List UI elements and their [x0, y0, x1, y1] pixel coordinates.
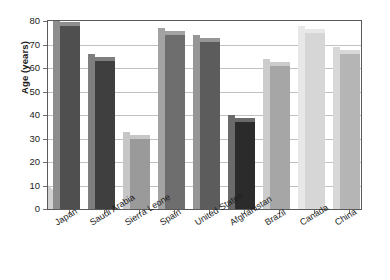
bar-front-face [200, 42, 220, 209]
plot-area [47, 20, 362, 210]
bar-top-face [193, 35, 200, 42]
y-tick-label: 30 [18, 134, 40, 144]
bar [200, 42, 220, 209]
y-tick-label: 70 [18, 40, 40, 50]
y-tick-label: 10 [18, 181, 40, 191]
bar-side-face [263, 66, 270, 209]
bar-front-face [95, 61, 115, 209]
y-tick-label: 60 [18, 63, 40, 73]
y-tick-label: 40 [18, 110, 40, 120]
bar [305, 33, 325, 209]
bar-front-face [165, 35, 185, 209]
bar [340, 54, 360, 209]
bar-top-face [88, 54, 95, 61]
bar-top-face [228, 115, 235, 122]
bar-top-face [123, 132, 130, 139]
y-tick-label: 0 [18, 204, 40, 214]
bar-front-face [305, 33, 325, 209]
y-tick-label: 20 [18, 157, 40, 167]
bar-side-face [88, 61, 95, 209]
y-tick-label: 50 [18, 87, 40, 97]
bar-top-face [53, 20, 60, 26]
bar [270, 66, 290, 209]
bar-front-face [270, 66, 290, 209]
bar-chart: Age (years) 80706050403020100 JapanSaudi… [0, 0, 390, 280]
bar [165, 35, 185, 209]
bar-side-face [158, 35, 165, 209]
bar-side-face [333, 54, 340, 209]
bar-front-face [60, 26, 80, 209]
bar-top-face [298, 26, 305, 33]
bar [60, 26, 80, 209]
bar-side-face [53, 26, 60, 209]
y-tick-label: 80 [18, 16, 40, 26]
bar-side-face [298, 33, 305, 209]
bar [95, 61, 115, 209]
bar-top-face [263, 59, 270, 66]
bar-side-face [193, 42, 200, 209]
bar-top-face [333, 47, 340, 54]
bar-top-face [158, 28, 165, 35]
x-tick-label: Brazil [263, 207, 287, 227]
bar-front-face [340, 54, 360, 209]
